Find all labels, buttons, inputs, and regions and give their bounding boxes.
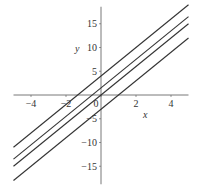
- y-tick-label: 5: [92, 66, 97, 77]
- x-axis-label: x: [142, 109, 148, 120]
- x-tick-label: 2: [134, 98, 139, 109]
- y-tick-label: −10: [81, 137, 97, 148]
- y-tick-label: −15: [81, 161, 97, 172]
- chart: −4−2024−15−10−551015 x y: [0, 0, 200, 190]
- y-tick-label: 10: [87, 42, 97, 53]
- y-tick-label: −5: [86, 113, 97, 124]
- y-axis-label: y: [74, 43, 80, 54]
- line-plot: −4−2024−15−10−551015 x y: [0, 0, 200, 190]
- y-tick-label: 15: [87, 18, 97, 29]
- x-tick-label: 4: [169, 98, 174, 109]
- x-tick-label: −4: [26, 98, 37, 109]
